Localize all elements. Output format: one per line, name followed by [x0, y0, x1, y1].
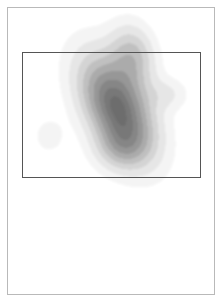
screenshot-root — [0, 0, 222, 303]
region-of-interest-box[interactable] — [22, 52, 201, 178]
